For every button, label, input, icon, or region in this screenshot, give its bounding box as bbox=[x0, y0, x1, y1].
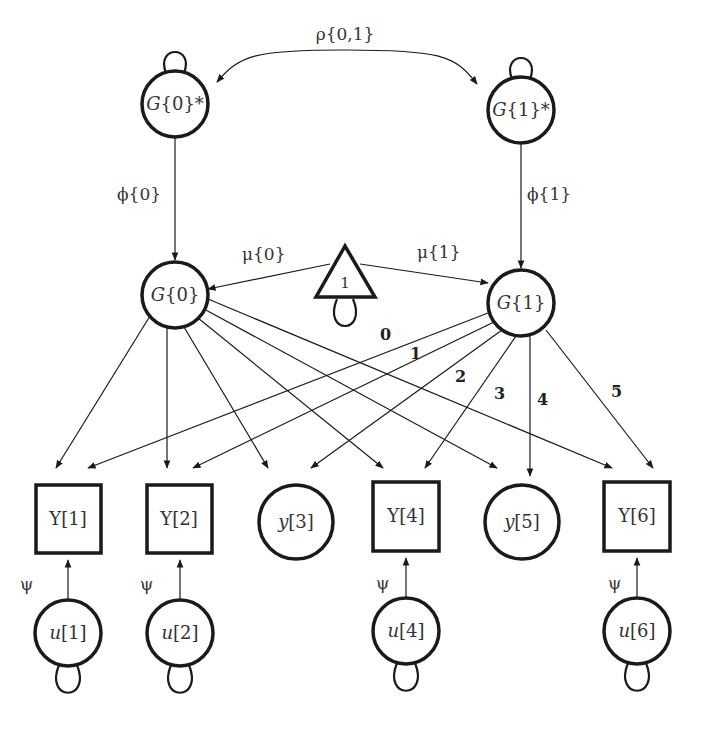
label-y4: Y[4] bbox=[386, 505, 424, 526]
label-loading-0: 0 bbox=[380, 325, 391, 344]
edge-rho bbox=[217, 50, 477, 84]
edge-g1-y2 bbox=[193, 322, 494, 468]
label-mu1: μ{1} bbox=[417, 242, 461, 262]
label-loading-5: 5 bbox=[611, 382, 622, 401]
label-u6: u[6] bbox=[618, 620, 655, 641]
label-psi-1: ψ bbox=[20, 574, 33, 594]
loop-u1 bbox=[56, 665, 80, 693]
loop-u4 bbox=[394, 663, 418, 691]
edge-mu0 bbox=[208, 264, 330, 289]
self-loops bbox=[56, 52, 649, 693]
label-loading-2: 2 bbox=[455, 367, 466, 386]
label-y6: Y[6] bbox=[617, 505, 655, 526]
label-loading-1: 1 bbox=[410, 344, 421, 363]
label-y2: Y[2] bbox=[159, 508, 197, 529]
edge-g1-y3 bbox=[311, 330, 502, 468]
label-y1: Y[1] bbox=[48, 508, 86, 529]
label-mu0: μ{0} bbox=[242, 244, 286, 264]
label-phi1: ϕ{1} bbox=[527, 184, 571, 204]
node-labels: G{0}* G{1}* G{0} G{1} 1 Y[1] Y[2] y[3] Y… bbox=[48, 93, 655, 643]
label-loading-3: 3 bbox=[494, 384, 505, 403]
label-psi-4: ψ bbox=[376, 573, 389, 593]
label-phi0: ϕ{0} bbox=[117, 184, 161, 204]
edge-g0-y3 bbox=[184, 327, 268, 468]
label-rho: ρ{0,1} bbox=[316, 24, 375, 44]
label-g0: G{0} bbox=[151, 284, 200, 305]
label-u4: u[4] bbox=[387, 620, 424, 641]
label-loading-4: 4 bbox=[537, 390, 548, 409]
label-g0-star: G{0}* bbox=[146, 93, 204, 114]
label-u1: u[1] bbox=[49, 622, 86, 643]
path-diagram: G{0}* G{1}* G{0} G{1} 1 Y[1] Y[2] y[3] Y… bbox=[0, 0, 701, 729]
edge-g0-y1 bbox=[56, 316, 150, 468]
edge-g0-y5 bbox=[204, 309, 497, 468]
label-psi-2: ψ bbox=[140, 574, 153, 594]
label-y5: y[5] bbox=[503, 511, 540, 532]
label-y3: y[3] bbox=[277, 511, 314, 532]
edge-g0-y6 bbox=[208, 299, 612, 468]
loop-u6 bbox=[625, 663, 649, 691]
edge-g0-y4 bbox=[198, 318, 383, 468]
loop-u2 bbox=[168, 665, 192, 693]
label-g1-star: G{1}* bbox=[492, 99, 550, 120]
nodes bbox=[35, 71, 670, 666]
label-u2: u[2] bbox=[161, 622, 198, 643]
label-g1: G{1} bbox=[497, 292, 546, 313]
diagram-canvas: G{0}* G{1}* G{0} G{1} 1 Y[1] Y[2] y[3] Y… bbox=[0, 0, 701, 729]
loop-const bbox=[334, 299, 356, 326]
edge-mu1 bbox=[360, 264, 488, 283]
label-constant: 1 bbox=[340, 274, 350, 292]
label-psi-6: ψ bbox=[608, 573, 621, 593]
